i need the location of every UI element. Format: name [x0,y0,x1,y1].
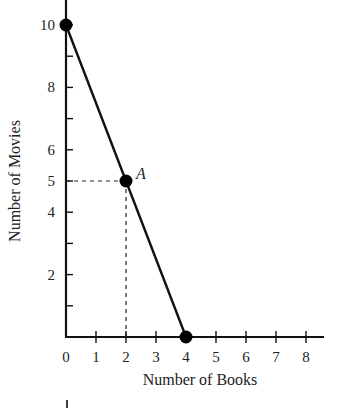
point-label-a: A [135,165,146,182]
x-tick-label: 0 [62,349,70,365]
x-tick-label: 4 [182,349,190,365]
x-tick-label: 8 [302,349,310,365]
data-point [60,19,73,32]
y-tick-label: 8 [48,79,56,95]
y-tick-label: 2 [48,267,56,283]
x-tick-label: 7 [272,349,280,365]
x-tick-label: 3 [152,349,160,365]
x-tick-label: 5 [212,349,220,365]
x-tick-label: 6 [242,349,250,365]
x-axis-title: Number of Books [143,371,258,388]
data-point [120,175,133,188]
data-point [180,331,193,344]
y-tick-label: 6 [48,142,56,158]
chart: 0123456782456810ANumber of BooksNumber o… [0,0,337,408]
y-tick-label: 10 [40,17,55,33]
y-tick-label: 5 [48,173,56,189]
x-tick-label: 2 [122,349,130,365]
x-tick-label: 1 [92,349,100,365]
y-tick-label: 4 [48,204,56,220]
y-axis-title: Number of Movies [6,120,23,242]
